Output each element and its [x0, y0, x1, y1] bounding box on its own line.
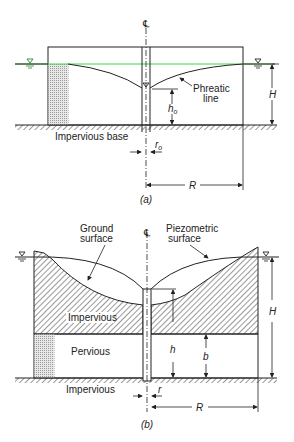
figure-b-confined-aquifer: ℄ Ground surface Piezometric surface Imp…: [15, 223, 279, 430]
phreatic-line-left: [68, 64, 142, 88]
H-label-b: H: [269, 306, 277, 317]
ground-surface-leader: [88, 245, 105, 280]
pervious-label: Pervious: [71, 346, 110, 357]
stippled-zone-b: [35, 335, 55, 378]
phreatic-leader: [180, 78, 192, 86]
r0-label: ro: [155, 139, 162, 151]
impervious-top-label: Impervious: [68, 312, 117, 323]
H-label-a: H: [269, 89, 277, 100]
impervious-bottom-label: Impervious: [66, 384, 115, 395]
figure-a-unconfined-aquifer: ℄ Phreatic line ho H Impervious base: [15, 18, 279, 205]
b-label: b: [203, 351, 209, 362]
h0-label: ho: [168, 103, 178, 115]
impervious-base-label: Impervious base: [55, 131, 129, 142]
caption-a: (a): [140, 194, 152, 205]
r-label: r: [158, 384, 162, 395]
h-label: h: [170, 344, 176, 355]
piezometric-leader: [190, 245, 208, 258]
piezometric-label-line2: surface: [168, 233, 201, 244]
stippled-zone: [49, 64, 69, 125]
phreatic-label-line2: line: [203, 93, 219, 104]
R-label-a: R: [189, 180, 196, 191]
centerline-symbol-b: ℄: [143, 227, 151, 238]
ground-surface-label-line2: surface: [80, 233, 113, 244]
impervious-layer-right: [151, 247, 258, 334]
caption-b: (b): [141, 419, 153, 430]
centerline-symbol: ℄: [142, 18, 150, 29]
R-label-b: R: [196, 402, 203, 413]
well-diagram: ℄ Phreatic line ho H Impervious base: [0, 0, 294, 442]
